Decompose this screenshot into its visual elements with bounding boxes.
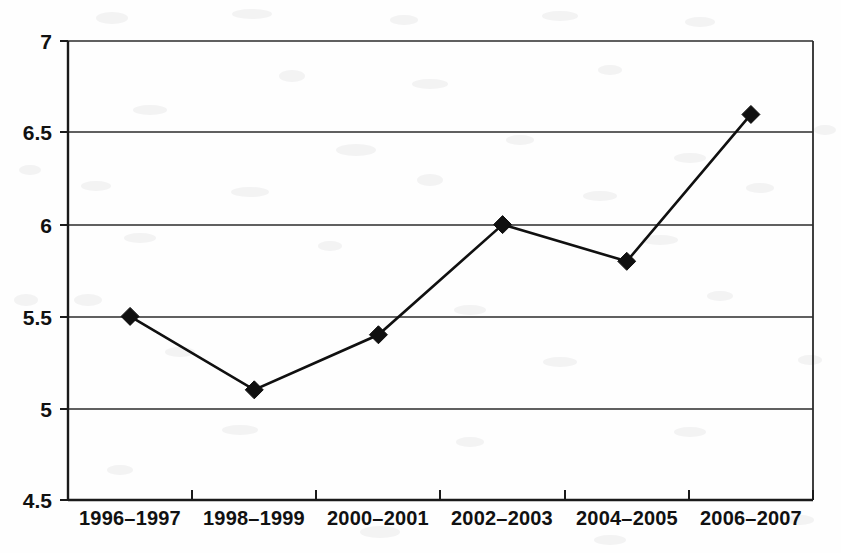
y-tick-label-4-5: 4.5 — [23, 489, 53, 512]
y-axis-labels: 7 6.5 6 5.5 5 4.5 — [23, 30, 53, 512]
x-tick-label-5: 2006–2007 — [700, 507, 802, 529]
y-tick-label-7: 7 — [40, 30, 52, 53]
line-chart: 7 6.5 6 5.5 5 4.5 1996–1997 1998–1999 20… — [0, 0, 841, 553]
chart-page: 7 6.5 6 5.5 5 4.5 1996–1997 1998–1999 20… — [0, 0, 841, 553]
y-tick-label-6: 6 — [40, 214, 52, 237]
x-tick-label-1: 1998–1999 — [203, 507, 305, 529]
x-tick-label-4: 2004–2005 — [576, 507, 678, 529]
x-tick-label-2: 2000–2001 — [327, 507, 429, 529]
x-tick-label-3: 2002–2003 — [451, 507, 553, 529]
y-tick-label-5-5: 5.5 — [23, 306, 53, 329]
x-tick-label-0: 1996–1997 — [79, 507, 181, 529]
y-tick-label-6-5: 6.5 — [23, 121, 53, 144]
plot-area — [68, 41, 813, 500]
y-tick-label-5: 5 — [40, 398, 52, 421]
x-axis-labels: 1996–1997 1998–1999 2000–2001 2002–2003 … — [79, 507, 802, 529]
